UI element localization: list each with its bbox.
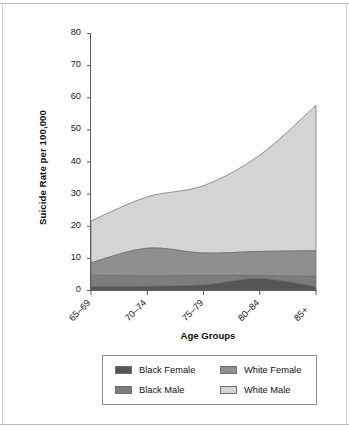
y-tick-label: 20: [55, 220, 81, 230]
chart-legend: Black Female White Female Black Male Whi…: [102, 355, 317, 405]
y-axis-title: Suicide Rate per 100,000: [37, 68, 48, 268]
area-layers: [91, 105, 316, 290]
y-tick-label: 80: [55, 27, 81, 37]
legend-swatch-white-male: [220, 386, 237, 394]
y-tick-label: 40: [55, 156, 81, 166]
legend-swatch-white-female: [220, 366, 237, 374]
x-axis-title: Age Groups: [88, 330, 328, 341]
area-band-white-male: [91, 105, 316, 262]
y-tick-label: 0: [55, 284, 81, 294]
legend-item-white-male: White Male: [220, 385, 291, 395]
y-tick-label: 70: [55, 59, 81, 69]
legend-item-white-female: White Female: [220, 365, 301, 375]
legend-label-black-male: Black Male: [139, 385, 184, 395]
legend-item-black-female: Black Female: [115, 365, 195, 375]
legend-item-black-male: Black Male: [115, 385, 184, 395]
legend-swatch-black-male: [115, 386, 132, 394]
legend-swatch-black-female: [115, 366, 132, 374]
legend-label-black-female: Black Female: [139, 365, 195, 375]
y-tick-label: 50: [55, 123, 81, 133]
legend-label-white-female: White Female: [244, 365, 301, 375]
y-tick-label: 30: [55, 188, 81, 198]
y-tick-label: 60: [55, 91, 81, 101]
legend-label-white-male: White Male: [244, 385, 291, 395]
y-tick-label: 10: [55, 252, 81, 262]
chart-figure: Suicide Rate per 100,000 Age Groups 0102…: [0, 0, 349, 431]
